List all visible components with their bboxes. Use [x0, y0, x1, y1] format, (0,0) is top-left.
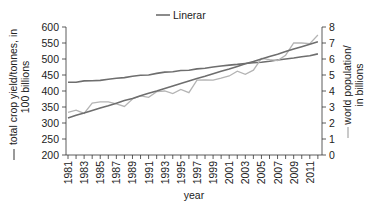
- left-tick-label: 250: [41, 133, 59, 145]
- right-tick-label: 1: [329, 133, 335, 145]
- chart: Linerar 600550500450400350300250200 8765…: [0, 0, 373, 207]
- axes: [66, 27, 322, 155]
- right-tick-label: 5: [329, 69, 335, 81]
- x-tick-label: 1981: [62, 161, 74, 185]
- left-tick-label: 400: [41, 85, 59, 97]
- right-tick-labels: 876543210: [329, 21, 335, 161]
- right-tick-label: 8: [329, 21, 335, 33]
- x-tick-label: 1995: [175, 161, 187, 185]
- left-axis-title-line1: total crop yield/tonnes, in: [7, 29, 19, 145]
- x-tick-label: 1993: [159, 161, 171, 185]
- left-axis-title-line2: 100 billions: [19, 61, 31, 114]
- right-tick-label: 2: [329, 117, 335, 129]
- right-tick-label: 3: [329, 101, 335, 113]
- left-tick-label: 350: [41, 101, 59, 113]
- legend-label-linear: Linerar: [173, 9, 206, 21]
- x-tick-label: 2003: [239, 161, 251, 185]
- left-axis-title: total crop yield/tonnes, in 100 billions: [7, 29, 31, 160]
- x-tick-label: 1989: [126, 161, 138, 185]
- x-tick-labels: 1981198319851987198919911993199519971999…: [62, 161, 316, 185]
- legend: Linerar: [156, 9, 206, 21]
- left-tick-label: 600: [41, 21, 59, 33]
- x-axis-title: year: [184, 189, 205, 201]
- x-tick-label: 1985: [94, 161, 106, 185]
- x-tick-label: 2009: [288, 161, 300, 185]
- left-tick-label: 500: [41, 53, 59, 65]
- x-tick-label: 2007: [272, 161, 284, 185]
- x-tick-label: 1999: [207, 161, 219, 185]
- right-tick-label: 7: [329, 37, 335, 49]
- left-tick-label: 300: [41, 117, 59, 129]
- x-tick-label: 2011: [304, 161, 316, 184]
- right-axis-title: world population/ in billions: [341, 45, 365, 138]
- left-tick-label: 450: [41, 69, 59, 81]
- x-tick-label: 1991: [143, 161, 155, 185]
- x-tick-label: 2005: [255, 161, 267, 185]
- left-tick-label: 550: [41, 37, 59, 49]
- left-tick-labels: 600550500450400350300250200: [41, 21, 59, 161]
- right-tick-label: 0: [329, 149, 335, 161]
- x-tick-label: 1987: [110, 161, 122, 185]
- right-axis-title-line2: in billions: [353, 63, 365, 106]
- right-tick-label: 6: [329, 53, 335, 65]
- x-tick-label: 1983: [78, 161, 90, 185]
- x-tick-label: 2001: [223, 161, 235, 185]
- series-crop-yield: [68, 35, 318, 113]
- x-tick-label: 1997: [191, 161, 203, 185]
- left-tick-label: 200: [41, 149, 59, 161]
- ticks: [62, 27, 326, 159]
- right-axis-title-line1: world population/: [341, 45, 353, 125]
- right-tick-label: 4: [329, 85, 335, 97]
